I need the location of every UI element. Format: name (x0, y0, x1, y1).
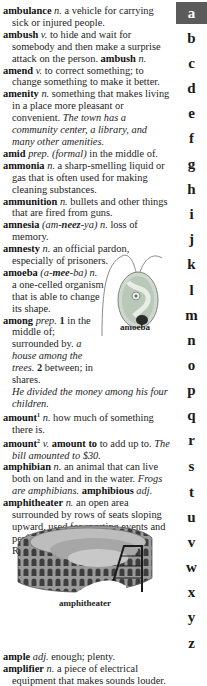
headword: among (3, 315, 33, 326)
tab-o[interactable]: o (176, 354, 207, 376)
entry-amplifier: amplifier n. a piece of electrical equip… (3, 663, 171, 686)
amphitheater-illustration (14, 516, 156, 596)
headword: amphitheater (3, 497, 63, 508)
entry-amnesia: amnesia (am-neez-ya) n. loss of memory. (3, 219, 171, 243)
part-of-speech: n. (90, 267, 98, 278)
phrase: amount to (52, 438, 97, 449)
part-of-speech: n. (60, 196, 68, 207)
part-of-speech: n. (43, 412, 51, 423)
tab-j[interactable]: j (176, 228, 207, 250)
headword: ammunition (3, 196, 57, 207)
entry-amount-2: amount2 v. amount to to add up to. The b… (3, 436, 171, 462)
definition: in the middle of. (89, 148, 158, 159)
usage-label: (formal) (52, 148, 87, 159)
example: He divided the money among his four chil… (12, 386, 168, 409)
headword: amenity (3, 88, 39, 99)
tab-t[interactable]: t (176, 481, 207, 503)
sense-number: 1 (60, 315, 65, 326)
definition: enough; plenty. (51, 651, 115, 662)
part-of-speech: adj. (33, 651, 49, 662)
tab-l[interactable]: l (176, 279, 207, 301)
tab-f[interactable]: f (176, 127, 207, 149)
headword: amoeba (3, 267, 38, 278)
tab-q[interactable]: q (176, 404, 207, 426)
part-of-speech: n. (41, 88, 49, 99)
entry-ammunition: ammunition n. bullets and other things t… (3, 196, 171, 220)
part-of-speech: n. (47, 663, 55, 674)
part-of-speech: n. (47, 160, 55, 171)
tab-p[interactable]: p (176, 379, 207, 401)
entry-amid: amid prep. (formal) in the middle of. (3, 148, 171, 160)
tab-i[interactable]: i (176, 203, 207, 225)
derived-form: ambush (101, 53, 136, 64)
tab-v[interactable]: v (176, 531, 207, 553)
part-of-speech: n. (100, 219, 108, 230)
headword: amnesia (3, 219, 39, 230)
tab-w[interactable]: w (176, 556, 207, 578)
tab-e[interactable]: e (176, 102, 207, 124)
amoeba-caption: amoeba (110, 322, 160, 332)
entry-amount-1: amount1 n. how much of something there i… (3, 410, 171, 436)
entry-ambush: ambush v. to hide and wait for somebody … (3, 29, 171, 65)
part-of-speech: prep. (36, 315, 57, 326)
tab-z[interactable]: z (176, 632, 207, 654)
headword: ambush (3, 29, 38, 40)
part-of-speech: v. (41, 29, 47, 40)
headword: ample (3, 651, 30, 662)
definition: to add up to. (100, 438, 152, 449)
headword: amount (3, 412, 37, 423)
entry-ammonia: ammonia n. a sharp-smelling liquid or ga… (3, 160, 171, 196)
tab-x[interactable]: x (176, 581, 207, 603)
headword: ambulance (3, 5, 52, 16)
headword: amnesty (3, 243, 40, 254)
part-of-speech: v. (36, 65, 42, 76)
derived-pos: adj. (136, 485, 152, 496)
entry-ample: ample adj. enough; plenty. (3, 651, 171, 663)
tab-s[interactable]: s (176, 455, 207, 477)
entry-amend: amend v. to correct something; to change… (3, 65, 171, 89)
tab-d[interactable]: d (176, 77, 207, 99)
part-of-speech: n. (54, 5, 62, 16)
tab-r[interactable]: r (176, 429, 207, 451)
tab-n[interactable]: n (176, 329, 207, 351)
entry-amoeba: amoeba (a-mee-ba) n. a one-celled organi… (3, 267, 104, 315)
headword: amplifier (3, 663, 44, 674)
definition: to correct something; to change somethin… (12, 65, 160, 88)
tab-c[interactable]: c (176, 52, 207, 74)
definition: a one-celled organism that is able to ch… (12, 279, 104, 314)
part-of-speech: n. (66, 497, 74, 508)
entry-amphibian: amphibian n. an animal that can live bot… (3, 461, 171, 497)
homograph-number: 2 (37, 438, 40, 444)
pronunciation: (am-neez-ya) (42, 219, 97, 230)
headword: amend (3, 65, 33, 76)
entry-among: among prep. 1 in the middle of; surround… (3, 315, 104, 386)
part-of-speech: prep. (28, 148, 49, 159)
headword: amid (3, 148, 26, 159)
part-of-speech: n. (43, 243, 51, 254)
tab-y[interactable]: y (176, 606, 207, 628)
headword: amount (3, 438, 37, 449)
tab-b[interactable]: b (176, 27, 207, 49)
tab-m[interactable]: m (176, 304, 207, 326)
tab-k[interactable]: k (176, 253, 207, 275)
entry-amenity: amenity n. something that makes living i… (3, 88, 171, 148)
part-of-speech: v. (43, 438, 49, 449)
part-of-speech: n. (54, 461, 62, 472)
sense-number: 2 (37, 362, 42, 373)
derived-pos: n. (138, 53, 146, 64)
pronunciation: (a-mee-ba) (40, 267, 87, 278)
tab-u[interactable]: u (176, 506, 207, 528)
headword: amphibian (3, 461, 51, 472)
tab-g[interactable]: g (176, 153, 207, 175)
entry-ambulance: ambulance n. a vehicle for carrying sick… (3, 5, 171, 29)
homograph-number: 1 (37, 412, 40, 418)
tab-h[interactable]: h (176, 178, 207, 200)
alphabet-tabs: a b c d e f g h i j k l m n o p q r s t … (176, 0, 207, 646)
amphitheater-caption: amphitheater (30, 598, 140, 608)
tab-a[interactable]: a (176, 2, 207, 24)
entry-among-example-2: He divided the money among his four chil… (3, 386, 171, 410)
headword: ammonia (3, 160, 45, 171)
derived-form: amphibious (82, 485, 134, 496)
